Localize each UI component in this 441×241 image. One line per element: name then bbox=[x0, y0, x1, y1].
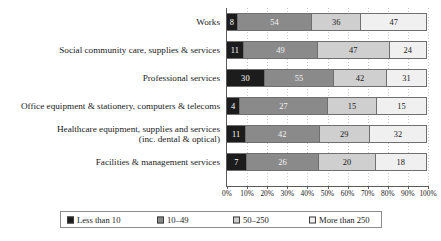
x-axis-tick-label: 50% bbox=[321, 189, 335, 198]
bar-segment-value: 4 bbox=[231, 102, 235, 111]
stacked-bar: 4271515 bbox=[226, 97, 427, 115]
category-label: Facilities & management services bbox=[0, 157, 224, 167]
bar-segment-value: 27 bbox=[279, 102, 288, 111]
y-axis-line bbox=[226, 8, 227, 186]
bar-segment-value: 20 bbox=[343, 158, 352, 167]
x-axis-tick-label: 10% bbox=[240, 189, 254, 198]
legend-label: Less than 10 bbox=[77, 215, 120, 224]
category-label: Social community care, supplies & servic… bbox=[0, 45, 224, 55]
bar-segment-value: 18 bbox=[396, 158, 405, 167]
chart-row: Facilities & management services7262018 bbox=[0, 148, 441, 176]
bar-segment: 20 bbox=[319, 154, 375, 170]
bar-segment: 7 bbox=[227, 154, 247, 170]
legend-swatch bbox=[157, 216, 164, 223]
bar-segment-value: 7 bbox=[234, 158, 238, 167]
chart-legend: Less than 1010–4950–250More than 250 bbox=[60, 211, 382, 228]
bar-segment: 8 bbox=[227, 14, 238, 30]
bar-segment: 32 bbox=[370, 126, 426, 142]
bar-segment-value: 31 bbox=[402, 74, 411, 83]
bar-segment: 11 bbox=[227, 42, 244, 58]
category-label: Office equipment & stationery, computers… bbox=[0, 101, 224, 111]
legend-item[interactable]: 10–49 bbox=[157, 215, 188, 224]
legend-swatch bbox=[67, 216, 74, 223]
bar-segment: 27 bbox=[240, 98, 328, 114]
x-axis-tick-label: 40% bbox=[301, 189, 315, 198]
bar-segment-value: 54 bbox=[270, 18, 279, 27]
x-axis-tick-label: 90% bbox=[401, 189, 415, 198]
bar-segment: 47 bbox=[361, 14, 426, 30]
legend-item[interactable]: Less than 10 bbox=[67, 215, 120, 224]
legend-label: 10–49 bbox=[167, 215, 188, 224]
bar-segment: 30 bbox=[227, 70, 265, 86]
bar-segment-value: 42 bbox=[278, 130, 287, 139]
category-label: Healthcare equipment, supplies and servi… bbox=[0, 124, 224, 144]
legend-item[interactable]: More than 250 bbox=[309, 215, 370, 224]
bar-segment: 36 bbox=[312, 14, 361, 30]
legend-item[interactable]: 50–250 bbox=[233, 215, 269, 224]
bar-segment-value: 15 bbox=[348, 102, 357, 111]
chart-plot-area: Works8543647Social community care, suppl… bbox=[0, 8, 441, 186]
x-axis-tick-label: 70% bbox=[361, 189, 375, 198]
bar-segment: 15 bbox=[328, 98, 377, 114]
x-axis-tick-label: 60% bbox=[341, 189, 355, 198]
chart-row: Office equipment & stationery, computers… bbox=[0, 92, 441, 120]
stacked-bar-chart: Works8543647Social community care, suppl… bbox=[0, 0, 441, 241]
bar-segment: 26 bbox=[247, 154, 320, 170]
bar-segment-value: 49 bbox=[276, 46, 285, 55]
legend-label: 50–250 bbox=[243, 215, 269, 224]
bar-segment-value: 47 bbox=[389, 18, 398, 27]
bar-segment-value: 30 bbox=[241, 74, 250, 83]
chart-row: Healthcare equipment, supplies and servi… bbox=[0, 120, 441, 148]
x-axis-tick-label: 20% bbox=[260, 189, 274, 198]
bar-segment-value: 26 bbox=[278, 158, 287, 167]
bar-segment-value: 47 bbox=[349, 46, 358, 55]
chart-row: Social community care, supplies & servic… bbox=[0, 36, 441, 64]
bar-segment: 18 bbox=[376, 154, 426, 170]
bar-segment-value: 11 bbox=[231, 46, 239, 55]
bar-segment: 15 bbox=[377, 98, 426, 114]
bar-segment: 24 bbox=[390, 42, 426, 58]
x-axis-tick-labels: 0%10%20%30%40%50%60%70%80%90%100% bbox=[227, 189, 428, 201]
bar-segment-value: 42 bbox=[356, 74, 365, 83]
bar-segment: 29 bbox=[320, 126, 371, 142]
chart-row: Works8543647 bbox=[0, 8, 441, 36]
stacked-bar: 7262018 bbox=[226, 153, 427, 171]
x-axis-tick-label: 100% bbox=[419, 189, 436, 198]
bar-segment: 42 bbox=[246, 126, 319, 142]
legend-swatch bbox=[233, 216, 240, 223]
chart-row: Professional services30554231 bbox=[0, 64, 441, 92]
x-axis-tick-label: 0% bbox=[222, 189, 232, 198]
stacked-bar: 11494724 bbox=[226, 41, 427, 59]
bar-segment-value: 29 bbox=[340, 130, 349, 139]
bar-segment-value: 8 bbox=[230, 18, 234, 27]
bar-segment-value: 36 bbox=[332, 18, 341, 27]
stacked-bar: 11422932 bbox=[226, 125, 427, 143]
bar-segment-value: 24 bbox=[403, 46, 412, 55]
bar-segment: 55 bbox=[265, 70, 334, 86]
bar-segment-value: 15 bbox=[397, 102, 406, 111]
bar-segment: 31 bbox=[387, 70, 426, 86]
legend-swatch bbox=[309, 216, 316, 223]
bar-segment: 4 bbox=[227, 98, 240, 114]
bar-segment: 47 bbox=[318, 42, 389, 58]
legend-label: More than 250 bbox=[319, 215, 370, 224]
bar-segment-value: 55 bbox=[295, 74, 304, 83]
stacked-bar: 8543647 bbox=[226, 13, 427, 31]
category-label: Works bbox=[0, 17, 224, 27]
bar-segment-value: 11 bbox=[232, 130, 240, 139]
bar-segment-value: 32 bbox=[394, 130, 403, 139]
stacked-bar: 30554231 bbox=[226, 69, 427, 87]
bar-segment: 42 bbox=[334, 70, 387, 86]
bar-segment: 49 bbox=[244, 42, 318, 58]
category-label: Professional services bbox=[0, 73, 224, 83]
x-axis-tick-label: 80% bbox=[381, 189, 395, 198]
bar-segment: 11 bbox=[227, 126, 246, 142]
bar-segment: 54 bbox=[238, 14, 312, 30]
x-axis-tick-label: 30% bbox=[281, 189, 295, 198]
